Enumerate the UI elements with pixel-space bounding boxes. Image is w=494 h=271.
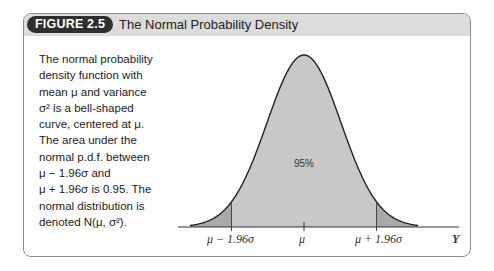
area-percent-label: 95% bbox=[294, 158, 314, 169]
left-tail-area bbox=[190, 202, 231, 227]
tick-label-center: μ bbox=[299, 232, 305, 247]
tick-label-right: μ + 1.96σ bbox=[355, 232, 402, 247]
tick-label-left: μ − 1.96σ bbox=[207, 232, 254, 247]
right-tail-area bbox=[377, 202, 418, 227]
normal-density-plot bbox=[0, 0, 494, 271]
center-area bbox=[231, 55, 376, 227]
axis-label-y: Y bbox=[452, 232, 459, 247]
